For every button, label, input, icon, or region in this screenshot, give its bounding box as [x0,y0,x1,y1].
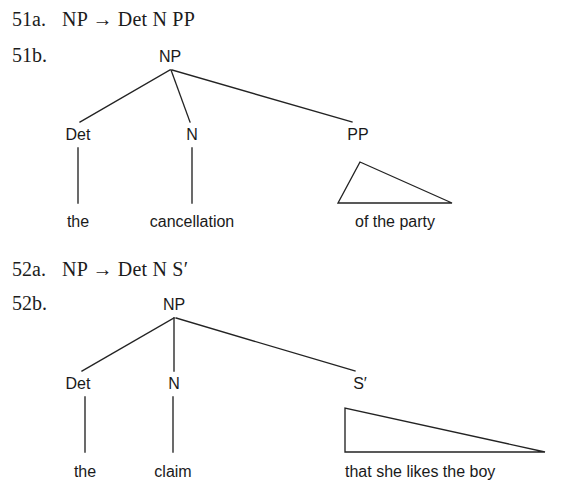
tree-52-node-det: Det [66,375,91,393]
phrase-structure-rule-51a: NP → Det N PP [62,8,195,31]
tree-51-branch-n [171,70,190,122]
tree-52-node-n: N [168,375,180,393]
tree-51-terminal-cancellation: cancellation [150,213,235,231]
example-label-52b: 52b. [12,292,47,315]
tree-51-terminal-the: the [67,213,89,231]
tree-51-triangle-pp [338,162,452,203]
phrase-structure-rule-52a: NP → Det N S′ [62,258,188,281]
tree-branch-strokes [0,0,570,504]
tree-52-node-root: NP [163,296,185,314]
tree-52-terminal-that-she-likes-the-boy: that she likes the boy [345,463,495,481]
tree-52-branch-sbar [176,318,355,371]
example-label-51a: 51a. [12,8,46,31]
tree-52-branch-det [82,318,174,371]
tree-51-branch-det [80,70,170,122]
tree-52-terminal-claim: claim [154,463,191,481]
tree-52-node-sbar: S′ [353,375,367,393]
tree-51-node-n: N [186,126,198,144]
tree-52-triangle-sbar [345,408,545,452]
tree-51-terminal-of-the-party: of the party [355,213,435,231]
example-label-51b: 51b. [12,44,47,67]
tree-51-node-pp: PP [347,126,368,144]
tree-51-branch-pp [172,70,352,122]
figure-canvas: 51a. NP → Det N PP 51b. NP Det N PP the … [0,0,570,504]
tree-51-node-det: Det [66,126,91,144]
example-label-52a: 52a. [12,258,46,281]
tree-52-terminal-the: the [74,463,96,481]
tree-51-node-root: NP [159,48,181,66]
